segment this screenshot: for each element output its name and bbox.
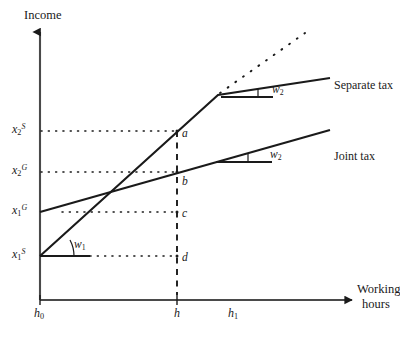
x-tick-label-h0: h0 — [34, 307, 44, 319]
x-tick-h-base: h — [174, 306, 180, 320]
separate-tax-curve — [40, 78, 330, 256]
slope-label-w2-separate: w2 — [272, 84, 284, 96]
point-label-b: b — [182, 176, 188, 188]
axes-group — [40, 32, 352, 300]
dot-a — [176, 130, 179, 133]
point-label-a: a — [182, 128, 188, 140]
slope-w2-joint-sub: 2 — [278, 153, 282, 162]
dot-c — [176, 211, 179, 214]
curve-label-joint-tax: Joint tax — [334, 150, 375, 162]
y-tick-label-x1s: x1S — [12, 248, 25, 260]
point-label-d: d — [182, 252, 188, 264]
x-axis-title-line1: Working — [357, 283, 400, 296]
x-tick-label-h: h — [174, 307, 180, 319]
x-tick-h1-sub: 1 — [234, 312, 238, 321]
y-tick-x1G-sup: G — [21, 203, 27, 212]
x-tick-h0-sub: 0 — [40, 312, 44, 321]
y-axis-title: Income — [24, 9, 61, 22]
slope-label-w2-joint: w2 — [270, 149, 282, 161]
slope-w2-separate-sub: 2 — [280, 88, 284, 97]
x-axis-title-line2: hours — [362, 298, 390, 311]
point-label-c: c — [182, 208, 187, 220]
dot-b — [176, 171, 179, 174]
x-tick-label-h1: h1 — [228, 307, 238, 319]
slope-w2-joint-base: w — [270, 148, 278, 160]
y-tick-x1s-sup: S — [21, 247, 25, 256]
y-tick-x2G-sup: G — [21, 163, 27, 172]
y-tick-label-x1G: x1G — [12, 204, 27, 216]
dot-d — [176, 255, 179, 258]
y-tick-label-x2s: x2S — [12, 123, 25, 135]
slope-w1-sub: 1 — [82, 243, 86, 252]
y-tick-label-x2G: x2G — [12, 164, 27, 176]
slope-w1-base: w — [74, 238, 82, 250]
slope-label-w1: w1 — [74, 239, 86, 251]
y-tick-x2s-sup: S — [21, 122, 25, 131]
joint-tax-curve — [40, 130, 330, 212]
slope-w2-separate-base: w — [272, 83, 280, 95]
curve-label-separate-tax: Separate tax — [334, 79, 393, 91]
